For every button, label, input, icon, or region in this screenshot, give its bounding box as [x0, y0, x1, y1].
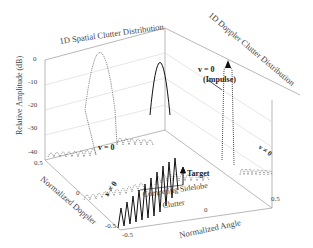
y-tick-neg: -0.5 [105, 222, 117, 230]
vne0-right-label: v ≠ 0 [257, 143, 274, 158]
z-tick-40: -40 [28, 148, 38, 156]
impulse-v0-label: v = 0 [198, 65, 215, 74]
x-tick-pos: 0.5 [271, 195, 280, 203]
z-axis-label: Relative Amplitude (dB) [15, 56, 24, 135]
z-tick-0: 0 [33, 55, 37, 63]
competing-label-2: Clutter [162, 198, 186, 210]
z-tick-10: -10 [28, 78, 38, 86]
x-tick-neg: -0.5 [122, 231, 134, 239]
impulse-label: (Impulse) [203, 75, 236, 84]
y-tick-zero: 0 [76, 189, 80, 197]
x-tick-zero: 0 [204, 206, 208, 214]
v0-left-label: v = 0 [98, 143, 115, 152]
competing-label-1: Competing Sidelobe [142, 181, 209, 199]
target-label: Target [187, 169, 210, 178]
y-tick-pos: 0.5 [34, 159, 43, 167]
z-tick-20: -20 [28, 101, 38, 109]
z-tick-30: -30 [28, 124, 38, 132]
vne0-left-label: v ≠ 0 [102, 180, 119, 199]
impulse-marker [225, 60, 231, 68]
x-axis-label: Normalized Angle [178, 217, 241, 240]
grid-lines [45, 53, 272, 175]
clutter-3d-plot: 1D Spatial Clutter Distribution 1D Doppl… [0, 0, 313, 248]
